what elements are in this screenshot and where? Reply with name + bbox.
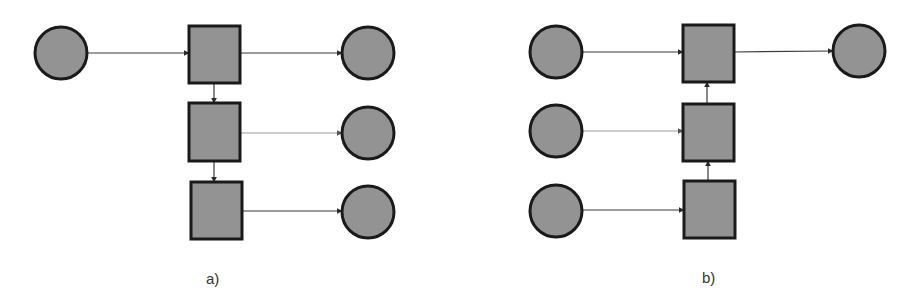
circle-node xyxy=(530,105,582,157)
circle-node xyxy=(833,25,885,77)
square-node xyxy=(683,25,734,82)
square-node xyxy=(189,103,240,161)
square-node xyxy=(683,104,734,161)
square-node xyxy=(189,26,240,83)
panel-b xyxy=(530,25,885,238)
circle-node xyxy=(530,26,582,78)
panel-b-caption: b) xyxy=(702,269,715,286)
circle-node xyxy=(530,185,582,237)
circle-node xyxy=(35,27,87,79)
arrow-edge xyxy=(734,51,833,52)
circle-node xyxy=(342,107,394,159)
square-node xyxy=(191,182,242,239)
circle-node xyxy=(342,186,394,238)
diagram-canvas xyxy=(0,0,917,298)
square-node xyxy=(684,181,735,238)
panel-a-caption: a) xyxy=(206,270,219,287)
panel-a xyxy=(35,26,394,239)
circle-node xyxy=(342,27,394,79)
